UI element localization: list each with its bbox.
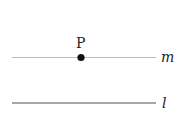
- point-p: [77, 54, 84, 61]
- line-l-label: l: [162, 95, 166, 111]
- point-p-label: P: [76, 35, 85, 51]
- line-m-label: m: [161, 49, 174, 65]
- geometry-diagram: P m l: [0, 0, 179, 121]
